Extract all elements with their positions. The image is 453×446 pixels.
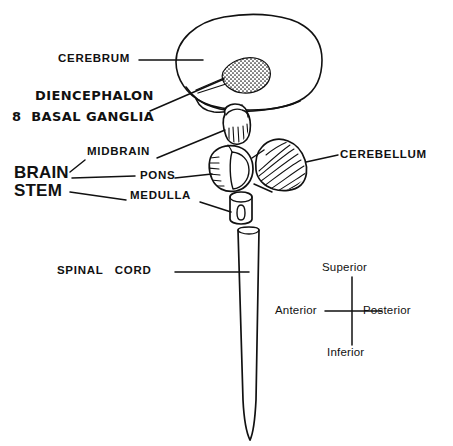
- label-cerebrum: CEREBRUM: [58, 53, 130, 65]
- label-basal-ganglia: 8 BASAL GANGLIA: [12, 110, 154, 123]
- label-cerebellum: CEREBELLUM: [340, 149, 427, 161]
- leader-cerebellum: [306, 155, 338, 162]
- bracket-brain-to-pons: [72, 176, 135, 178]
- label-diencephalon: DIENCEPHALON: [35, 89, 154, 102]
- diencephalon-tail: [196, 78, 224, 90]
- label-pons: PONS: [140, 170, 175, 182]
- label-posterior: Posterior: [363, 305, 411, 317]
- bracket-brain-to-midbrain: [70, 160, 85, 172]
- pons-shape: [208, 145, 253, 191]
- cerebellum-shape: [256, 139, 307, 192]
- medulla-shape: [230, 192, 252, 224]
- label-stem: STEM: [14, 182, 62, 199]
- spinal-cord-shape: [238, 227, 259, 440]
- label-midbrain: MIDBRAIN: [87, 146, 150, 158]
- label-anterior: Anterior: [275, 305, 317, 317]
- label-superior: Superior: [322, 262, 367, 274]
- bracket-stem-to-medulla: [70, 192, 126, 200]
- label-medulla: MEDULLA: [130, 190, 191, 202]
- basal-ganglia-stipple: [222, 58, 270, 93]
- label-spinal-cord: SPINAL CORD: [57, 265, 152, 277]
- leader-medulla: [200, 202, 231, 212]
- label-brain: BRAIN: [14, 164, 69, 181]
- leader-pons: [175, 174, 212, 178]
- label-inferior: Inferior: [327, 347, 364, 359]
- midbrain-shape: [223, 104, 250, 144]
- brain-diagram-canvas: [0, 0, 453, 446]
